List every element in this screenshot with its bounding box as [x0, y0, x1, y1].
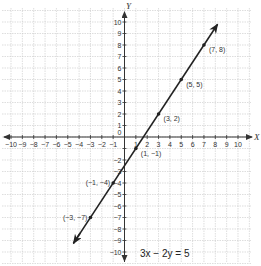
x-tick-label: −6	[52, 141, 60, 148]
y-tick-label: 9	[118, 30, 122, 37]
x-tick-label: −3	[86, 141, 94, 148]
x-tick-label: −2	[98, 141, 106, 148]
x-tick-label: 10	[234, 141, 242, 148]
x-tick-label: −10	[5, 141, 17, 148]
series: (7, 8)(5, 5)(3, 2)(1, −1)(−1, −4)(−3, −7…	[63, 24, 225, 243]
data-point-label: (5, 5)	[186, 81, 202, 89]
y-tick-label: 1	[118, 122, 122, 129]
y-tick-label: 3	[118, 99, 122, 106]
x-axis-label: X	[253, 132, 260, 142]
x-tick-label: 5	[179, 141, 183, 148]
x-tick-label: 8	[213, 141, 217, 148]
y-tick-label: 8	[118, 42, 122, 49]
data-point	[134, 147, 138, 151]
x-tick-label: −1	[109, 141, 117, 148]
y-tick-label: 6	[118, 65, 122, 72]
x-tick-label: −7	[41, 141, 49, 148]
data-point	[179, 78, 183, 82]
x-tick-label: −4	[75, 141, 83, 148]
y-tick-label: −7	[114, 214, 122, 221]
y-tick-label: −5	[114, 191, 122, 198]
data-point	[89, 216, 93, 220]
data-point-label: (3, 2)	[164, 115, 180, 123]
y-tick-label: −6	[114, 203, 122, 210]
y-axis-label: Y	[126, 1, 132, 11]
series-line	[73, 24, 217, 243]
y-tick-label: 2	[118, 111, 122, 118]
x-tick-label: 7	[202, 141, 206, 148]
x-tick-label: 4	[168, 141, 172, 148]
y-tick-label: 4	[118, 88, 122, 95]
y-tick-label: −10	[110, 249, 122, 256]
x-tick-label: −9	[18, 141, 26, 148]
y-tick-label: −8	[114, 226, 122, 233]
x-tick-label: 2	[145, 141, 149, 148]
data-point	[157, 112, 161, 116]
coordinate-plane: −10−9−8−7−6−5−4−3−2−11234567891010987654…	[0, 0, 261, 266]
x-tick-label: −8	[30, 141, 38, 148]
data-point-label: (1, −1)	[141, 150, 161, 158]
data-point-label: (−3, −7)	[63, 214, 88, 222]
origin-label: 0	[118, 129, 122, 136]
data-point	[202, 43, 206, 47]
y-tick-label: 10	[114, 19, 122, 26]
data-point	[111, 181, 115, 185]
y-tick-label: 7	[118, 53, 122, 60]
x-tick-label: 3	[157, 141, 161, 148]
x-tick-label: 6	[191, 141, 195, 148]
x-tick-label: 9	[225, 141, 229, 148]
y-tick-label: −9	[114, 237, 122, 244]
y-tick-label: −2	[114, 157, 122, 164]
data-point-label: (7, 8)	[209, 46, 225, 54]
equation-label: 3x − 2y = 5	[140, 248, 190, 259]
data-point-label: (−1, −4)	[86, 179, 111, 187]
x-tick-label: −5	[64, 141, 72, 148]
y-tick-label: 5	[118, 76, 122, 83]
